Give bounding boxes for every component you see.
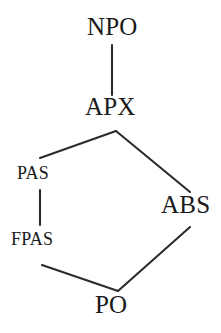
edge-po-abs (118, 227, 190, 291)
node-label-pas: PAS (17, 158, 49, 183)
edge-fpas-po (42, 265, 118, 291)
node-label-fpas: FPAS (11, 224, 53, 249)
edge-apx-pas (40, 131, 116, 158)
node-label-po: PO (95, 292, 127, 317)
node-label-npo: NPO (87, 14, 138, 39)
lattice-diagram: NPO APX PAS ABS FPAS PO (0, 0, 221, 333)
node-label-abs: ABS (161, 192, 210, 217)
node-label-apx: APX (85, 94, 136, 119)
edge-apx-abs (116, 131, 190, 192)
